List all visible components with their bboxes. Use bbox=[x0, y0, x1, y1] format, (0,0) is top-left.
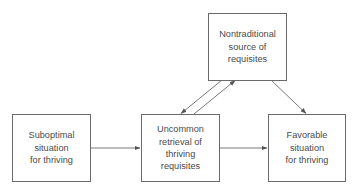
node-label: Suboptimal situation for thriving bbox=[29, 129, 75, 166]
edge-uncommon-to-nontraditional bbox=[194, 81, 235, 115]
node-favorable-situation: Favorable situation for thriving bbox=[268, 114, 346, 182]
node-nontraditional-source: Nontraditional source of requisites bbox=[208, 13, 287, 81]
node-uncommon-retrieval: Uncommon retrieval of thriving requisite… bbox=[141, 114, 220, 182]
node-label: Uncommon retrieval of thriving requisite… bbox=[157, 123, 204, 173]
node-label: Nontraditional source of requisites bbox=[219, 28, 276, 65]
edge-nontraditional-to-uncommon bbox=[181, 80, 222, 114]
node-label: Favorable situation for thriving bbox=[286, 129, 329, 166]
edge-nontraditional-to-favorable bbox=[271, 80, 306, 114]
node-suboptimal-situation: Suboptimal situation for thriving bbox=[12, 114, 91, 182]
